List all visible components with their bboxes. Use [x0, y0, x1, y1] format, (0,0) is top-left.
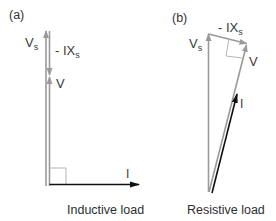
vs-symbol: V [25, 35, 34, 50]
caption-resistive-load: Resistive load [187, 204, 265, 217]
panel-b [209, 34, 247, 193]
i-label-b: I [240, 98, 243, 110]
panel-label-b: (b) [172, 12, 187, 25]
ixs-label-b: - IXs [218, 21, 243, 37]
i-vector-b [212, 94, 237, 193]
v-label-b: V [249, 55, 258, 68]
ixs-subscript: s [238, 27, 243, 37]
vs-symbol: V [189, 36, 198, 51]
ixs-label-a: - IXs [55, 44, 80, 60]
i-label-a: I [126, 168, 129, 180]
caption-inductive-load: Inductive load [67, 204, 144, 217]
ixs-subscript: s [75, 50, 80, 60]
vs-subscript: s [34, 42, 39, 52]
vs-subscript: s [198, 43, 203, 53]
vs-label-a: Vs [25, 36, 38, 52]
right-angle-marker-a [50, 168, 67, 184]
vs-label-b: Vs [189, 37, 202, 53]
ixs-symbol: - IX [218, 20, 238, 35]
v-vector-b [209, 45, 247, 192]
v-label-a: V [56, 77, 65, 90]
panel-label-a: (a) [9, 9, 24, 22]
ixs-symbol: - IX [55, 43, 75, 58]
